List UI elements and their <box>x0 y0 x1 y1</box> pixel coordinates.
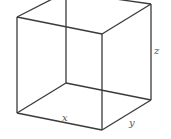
edge-back-bottom <box>66 83 151 100</box>
edge-front-bottom <box>17 113 102 130</box>
label-x: x <box>62 112 68 123</box>
edge-back-top <box>66 0 151 4</box>
edge-bottom-right-depth <box>102 100 151 130</box>
cube-diagram: x y z <box>0 0 171 139</box>
edge-front-top <box>17 17 102 34</box>
label-y: y <box>128 117 135 128</box>
edge-top-left-depth <box>17 0 66 17</box>
edge-bottom-left-depth <box>17 83 66 113</box>
edge-top-right-depth <box>102 4 151 34</box>
label-z: z <box>153 45 160 56</box>
